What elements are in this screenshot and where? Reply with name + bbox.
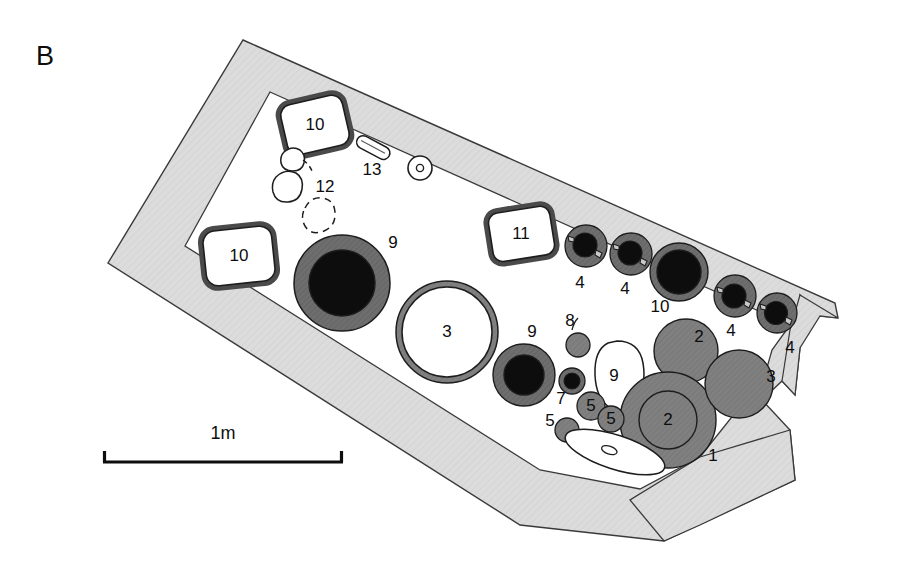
feature-2a-label: 2	[663, 410, 672, 429]
feature-7-small-disc[interactable]	[566, 333, 590, 357]
scale-bar-label: 1m	[210, 423, 235, 443]
feature-5a-label: 5	[586, 396, 595, 415]
stone-shape-1	[281, 148, 305, 171]
hearth-core	[309, 250, 375, 316]
feature-11-label: 12	[316, 177, 335, 196]
hearth-core	[657, 250, 701, 294]
posthole-core	[618, 241, 642, 265]
feature-4d-posthole[interactable]	[757, 293, 797, 333]
feature-6-label: 7	[556, 389, 565, 408]
feature-10a-label: 10	[306, 115, 325, 134]
feature-8-label: 9	[609, 366, 618, 385]
feature-4d-label: 4	[785, 338, 794, 357]
feature-9c-label: 10	[651, 297, 670, 316]
feature-5b-label: 5	[606, 409, 615, 428]
feature-4c-posthole[interactable]	[714, 275, 756, 317]
stone-shape-2	[272, 171, 302, 202]
posthole-core	[722, 284, 746, 308]
posthole-core	[573, 233, 597, 257]
panel-letter: B	[36, 41, 54, 71]
feature-7-label: 8	[565, 311, 574, 330]
feature-9b-label: 9	[527, 322, 536, 341]
feature-13-ring-with-dot[interactable]	[408, 156, 432, 180]
feature-4a-label: 4	[575, 273, 584, 292]
feature-3b-label: 3	[766, 367, 775, 386]
feature-4b-posthole[interactable]	[610, 233, 652, 275]
feature-4a-posthole[interactable]	[565, 225, 607, 267]
figure-root: 10 10 11 12 13 9 3	[0, 0, 910, 580]
feature-4c-label: 4	[726, 321, 735, 340]
feature-4b-label: 4	[620, 279, 629, 298]
feature-3b-gray-disc[interactable]	[705, 350, 773, 418]
feature-10c-label: 11	[512, 224, 530, 243]
feature-2b-label: 2	[694, 327, 703, 346]
ring-center-dot	[416, 164, 423, 171]
feature-3a-label: 3	[442, 322, 451, 341]
feature-5c-label: 5	[545, 411, 554, 430]
feature-9a-hearth[interactable]	[294, 235, 390, 331]
feature-9b-hearth[interactable]	[493, 344, 555, 406]
feature-12-label: 13	[363, 160, 382, 179]
hearth-core	[504, 355, 544, 395]
feature-10b-label: 10	[230, 246, 249, 265]
site-plan-svg: 10 10 11 12 13 9 3	[0, 0, 910, 580]
feature-9c-hearth[interactable]	[650, 243, 708, 301]
posthole-core	[765, 302, 788, 325]
scale-bar: 1m	[103, 423, 343, 462]
feature-9a-label: 9	[388, 233, 397, 252]
feature-1-label: 1	[708, 446, 717, 465]
ring-core	[564, 373, 580, 389]
